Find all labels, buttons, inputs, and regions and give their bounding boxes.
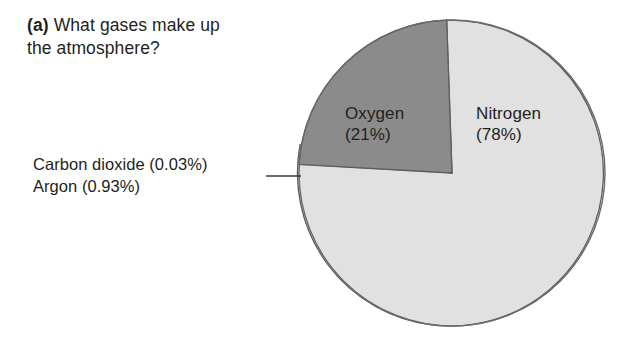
pie-label-oxygen-value: (21%) <box>345 125 391 144</box>
pie-label-nitrogen-value: (78%) <box>476 125 522 144</box>
pie-slice-oxygen <box>299 20 452 173</box>
pie-label-nitrogen-name: Nitrogen <box>476 104 541 123</box>
pie-label-oxygen-name: Oxygen <box>345 104 404 123</box>
figure-container: (a) What gases make up the atmosphere? C… <box>0 0 633 348</box>
pie-chart: Nitrogen (78%) Oxygen (21%) <box>0 0 633 348</box>
